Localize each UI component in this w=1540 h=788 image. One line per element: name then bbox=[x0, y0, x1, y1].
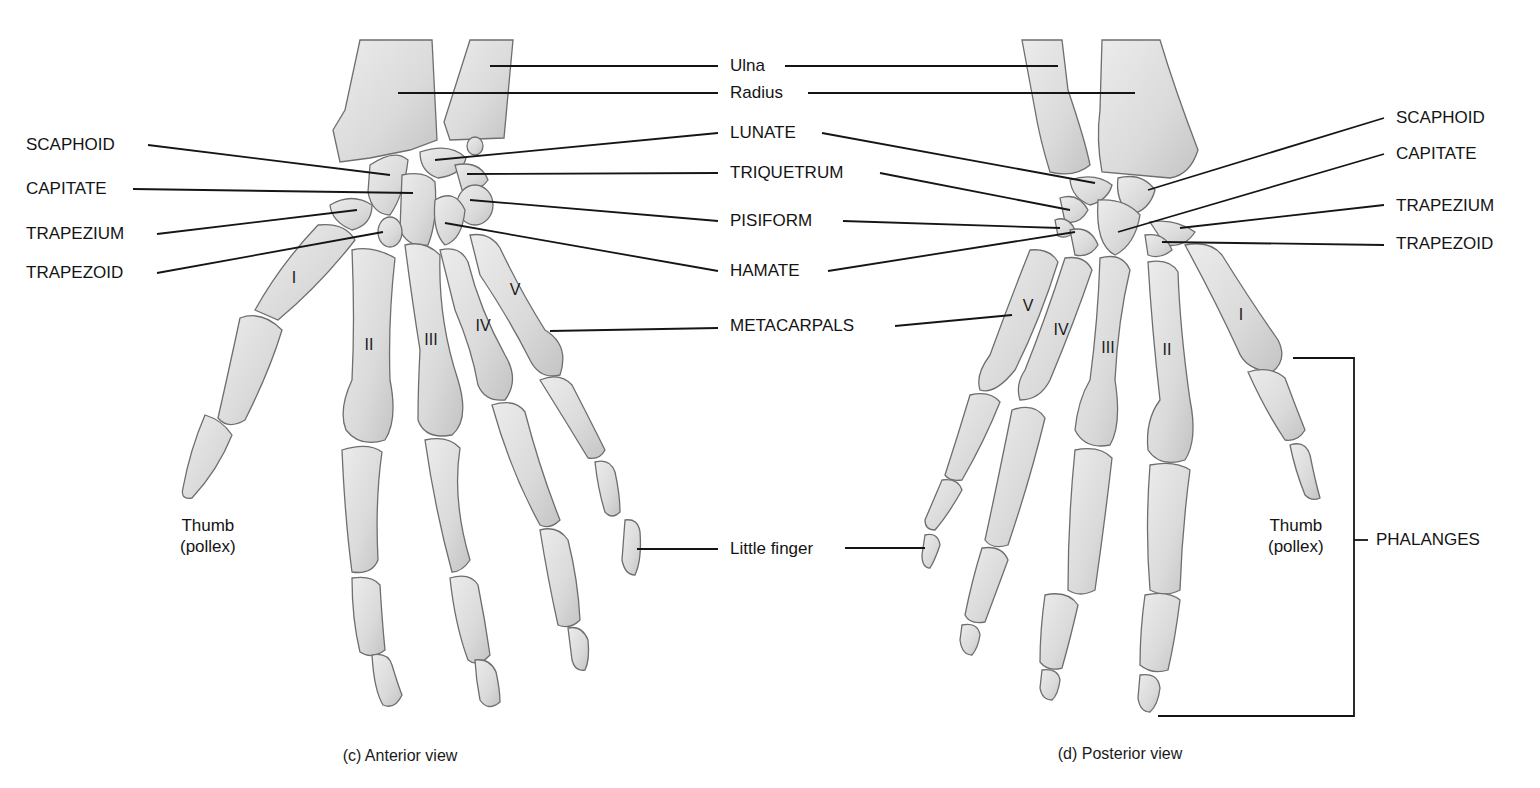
anterior-metacarpal-1 bbox=[255, 225, 355, 320]
anterior-finger-5-middle bbox=[595, 461, 620, 516]
anterior-finger-3-proximal bbox=[425, 439, 470, 572]
label-thumb-posterior-line2: (pollex) bbox=[1268, 536, 1324, 557]
label-metacarpals: METACARPALS bbox=[730, 316, 854, 336]
anterior-thumb-proximal bbox=[218, 316, 282, 425]
label-scaphoid-posterior: SCAPHOID bbox=[1396, 108, 1485, 128]
posterior-finger-2-distal bbox=[1138, 675, 1160, 712]
anterior-finger-2-distal bbox=[372, 654, 402, 706]
numeral-anterior-2: II bbox=[365, 336, 374, 354]
posterior-ulna-bone bbox=[1022, 40, 1090, 174]
label-trapezoid-posterior: TRAPEZOID bbox=[1396, 234, 1493, 254]
posterior-finger-5-distal bbox=[922, 534, 940, 568]
caption-posterior-view: (d) Posterior view bbox=[1058, 745, 1182, 763]
anterior-finger-2-middle bbox=[352, 577, 385, 655]
label-scaphoid-anterior: SCAPHOID bbox=[26, 135, 115, 155]
label-hamate: HAMATE bbox=[730, 261, 800, 281]
anterior-finger-3-middle bbox=[450, 576, 490, 663]
caption-anterior-view: (c) Anterior view bbox=[343, 747, 458, 765]
posterior-radius-bone bbox=[1098, 40, 1198, 178]
anterior-hand bbox=[182, 40, 640, 707]
label-lunate: LUNATE bbox=[730, 123, 796, 143]
numeral-anterior-5: V bbox=[510, 281, 521, 299]
label-trapezoid-anterior: TRAPEZOID bbox=[26, 263, 123, 283]
label-ulna: Ulna bbox=[730, 56, 765, 76]
posterior-finger-3-middle bbox=[1040, 594, 1078, 669]
numeral-anterior-4: IV bbox=[475, 317, 490, 335]
numeral-posterior-5: V bbox=[1023, 297, 1034, 315]
label-phalanges: PHALANGES bbox=[1376, 530, 1480, 550]
label-trapezium-anterior: TRAPEZIUM bbox=[26, 224, 124, 244]
label-thumb-posterior-line1: Thumb bbox=[1268, 515, 1324, 536]
label-capitate-anterior: CAPITATE bbox=[26, 179, 107, 199]
anterior-finger-4-middle bbox=[540, 529, 580, 627]
anterior-finger-4-proximal bbox=[492, 403, 560, 527]
posterior-finger-5-middle bbox=[925, 480, 962, 530]
label-thumb-posterior: Thumb (pollex) bbox=[1268, 515, 1324, 557]
anterior-finger-2-proximal bbox=[342, 446, 382, 572]
label-thumb-anterior-line2: (pollex) bbox=[180, 536, 236, 557]
label-trapezium-posterior: TRAPEZIUM bbox=[1396, 196, 1494, 216]
label-triquetrum: TRIQUETRUM bbox=[730, 163, 843, 183]
posterior-thumb-proximal bbox=[1248, 370, 1305, 441]
numeral-anterior-1: I bbox=[292, 269, 296, 287]
numeral-posterior-4: IV bbox=[1053, 321, 1068, 339]
posterior-finger-3-proximal bbox=[1068, 449, 1112, 594]
posterior-finger-3-distal bbox=[1040, 670, 1060, 700]
numeral-posterior-3: III bbox=[1101, 339, 1114, 357]
posterior-finger-5-proximal bbox=[945, 394, 1000, 481]
anterior-ulna-styloid bbox=[467, 137, 483, 155]
label-thumb-anterior: Thumb (pollex) bbox=[180, 515, 236, 557]
numeral-anterior-3: III bbox=[424, 331, 437, 349]
posterior-thumb-distal bbox=[1290, 444, 1320, 500]
label-pisiform: PISIFORM bbox=[730, 211, 812, 231]
posterior-hand bbox=[922, 40, 1320, 712]
label-capitate-posterior: CAPITATE bbox=[1396, 144, 1477, 164]
anterior-thumb-distal bbox=[182, 415, 232, 498]
posterior-finger-2-proximal bbox=[1148, 463, 1191, 594]
posterior-metacarpal-2 bbox=[1148, 261, 1194, 462]
label-radius: Radius bbox=[730, 83, 783, 103]
anterior-finger-5-distal bbox=[622, 520, 640, 575]
numeral-posterior-1: I bbox=[1239, 306, 1243, 324]
anterior-radius-bone bbox=[333, 40, 437, 162]
hand-skeleton-illustration bbox=[0, 0, 1540, 788]
anterior-finger-4-distal bbox=[568, 628, 589, 671]
label-little-finger: Little finger bbox=[730, 539, 813, 559]
anterior-finger-5-proximal bbox=[540, 377, 605, 458]
posterior-finger-2-middle bbox=[1140, 593, 1180, 671]
anterior-hamate-bone bbox=[434, 196, 465, 245]
posterior-finger-4-proximal bbox=[985, 407, 1045, 546]
label-thumb-anterior-line1: Thumb bbox=[180, 515, 236, 536]
anterior-capitate-bone bbox=[400, 174, 436, 246]
posterior-metacarpal-1 bbox=[1185, 244, 1282, 372]
posterior-finger-4-distal bbox=[960, 624, 980, 655]
numeral-posterior-2: II bbox=[1163, 341, 1172, 359]
anterior-ulna-bone bbox=[444, 40, 513, 140]
anterior-finger-3-distal bbox=[475, 660, 500, 707]
posterior-finger-4-middle bbox=[965, 548, 1008, 623]
